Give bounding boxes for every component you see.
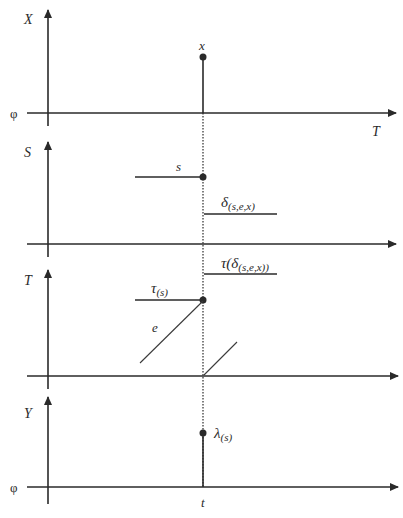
y-point-label: λ(s) <box>213 425 232 444</box>
x-origin-label: φ <box>10 106 18 121</box>
s-after-label: δ(s,e,x) <box>221 194 255 213</box>
y-origin-label: φ <box>10 480 18 495</box>
t-after-label: τ(δ(s,e,x)) <box>221 255 269 274</box>
t-axis-label: T <box>24 273 33 288</box>
elapsed-ramp-after <box>204 342 237 375</box>
t-before-label: τ(s) <box>151 280 168 299</box>
s-before-label: s <box>176 159 181 174</box>
y-event-dot <box>200 430 207 437</box>
elapsed-ramp-before <box>140 301 203 363</box>
t-transition-dot <box>200 297 207 304</box>
x-event-dot <box>200 54 207 61</box>
y-axis-label: Y <box>24 406 34 421</box>
panel-output-y: Y φ λ(s) t <box>10 397 398 510</box>
y-time-label: t <box>201 495 205 510</box>
s-axis-label: S <box>24 145 31 160</box>
t-elapsed-label: e <box>152 320 158 335</box>
devs-timing-diagram: X φ T x S s δ(s,e,x) T τ(δ(s,e,x)) τ(s) … <box>0 0 403 518</box>
x-axis-label: X <box>23 12 33 27</box>
x-time-label: T <box>372 124 381 139</box>
panel-time-advance-t: T τ(δ(s,e,x)) τ(s) e <box>24 255 398 389</box>
panel-state-s: S s δ(s,e,x) <box>24 142 396 257</box>
s-transition-dot <box>200 174 207 181</box>
x-point-label: x <box>198 38 205 53</box>
